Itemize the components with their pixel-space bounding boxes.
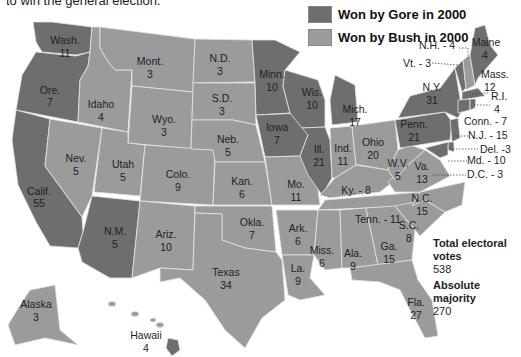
- votes-ga: 15: [383, 253, 395, 265]
- votes-ark: 6: [295, 235, 301, 247]
- votes-wash: 11: [60, 47, 71, 59]
- label-idaho: Idaho: [88, 98, 114, 110]
- legend-label-bush: Won by Bush in 2000: [338, 30, 469, 45]
- state-ri[interactable]: [470, 99, 476, 110]
- label-sc: S.C.: [399, 219, 419, 231]
- total-value: 538: [433, 263, 521, 276]
- votes-nd: 3: [217, 65, 223, 77]
- votes-kan: 6: [239, 188, 245, 200]
- state-ariz-left[interactable]: [78, 196, 140, 278]
- state-conn[interactable]: [458, 99, 470, 113]
- votes-maine: 4: [482, 49, 488, 61]
- label-vt: Vt. - 3: [403, 57, 431, 69]
- label-wash: Wash.: [50, 34, 79, 46]
- label-sd: S.D.: [212, 92, 232, 104]
- label-la: La.: [291, 262, 306, 274]
- votes-va: 13: [416, 173, 428, 185]
- label-ohio: Ohio: [362, 136, 384, 148]
- votes-sd: 3: [219, 105, 225, 117]
- votes-ala: 9: [350, 260, 356, 272]
- votes-okla: 7: [249, 229, 255, 241]
- label-ark: Ark.: [289, 222, 308, 234]
- votes-miss: 6: [319, 257, 325, 269]
- votes-iowa: 7: [274, 134, 280, 146]
- electoral-totals: Total electoral votes 538 Absolute major…: [433, 237, 521, 318]
- label-maine: Maine: [472, 36, 501, 48]
- label-fla: Fla.: [407, 296, 425, 308]
- label-nev: Nev.: [66, 152, 87, 164]
- label-nm: N.M.: [104, 225, 126, 237]
- label-neb: Neb.: [217, 133, 239, 145]
- label-dc: D.C. - 3: [467, 168, 503, 180]
- votes-sc: 8: [406, 232, 412, 244]
- votes-neb: 5: [225, 146, 231, 158]
- votes-colo: 9: [175, 181, 181, 193]
- state-alaska[interactable]: [8, 285, 78, 345]
- votes-la: 9: [295, 275, 301, 287]
- label-ga: Ga.: [381, 240, 398, 252]
- votes-ohio: 20: [367, 149, 379, 161]
- votes-nc: 15: [416, 205, 428, 217]
- majority-value: 270: [433, 305, 521, 318]
- label-ri: R.I.: [491, 90, 507, 102]
- votes-idaho: 4: [98, 111, 104, 123]
- votes-mo: 11: [291, 191, 302, 203]
- legend: Won by Gore in 2000 Won by Bush in 2000: [308, 4, 469, 50]
- label-mont: Mont.: [137, 55, 163, 67]
- votes-calif: 55: [33, 197, 45, 209]
- votes-nev: 5: [73, 165, 79, 177]
- gore-swatch: [308, 6, 332, 23]
- votes-ore: 7: [47, 96, 53, 108]
- label-colo: Colo.: [166, 168, 191, 180]
- label-mich: Mich.: [342, 103, 367, 115]
- label-wyo: Wyo.: [152, 113, 176, 125]
- votes-alaska: 3: [33, 311, 39, 323]
- leader-vt: [432, 63, 458, 65]
- label-tenn: Tenn. - 11: [355, 213, 401, 225]
- state-sd[interactable]: [192, 83, 256, 125]
- votes-nm: 5: [112, 238, 118, 250]
- label-okla: Okla.: [240, 216, 265, 228]
- votes-texas: 34: [220, 279, 232, 291]
- votes-mich: 17: [349, 116, 361, 128]
- legend-item-gore: Won by Gore in 2000: [308, 4, 469, 24]
- label-minn: Minn.: [259, 68, 285, 80]
- label-md: Md. - 10: [467, 154, 506, 166]
- total-label-line1: Total electoral: [433, 237, 521, 250]
- state-ny[interactable]: [398, 68, 462, 118]
- majority-label: Absolute majority: [433, 279, 521, 305]
- label-nj: N.J. - 15: [468, 129, 508, 141]
- label-mo: Mo.: [287, 178, 305, 190]
- label-hawaii: Hawaii: [130, 329, 162, 341]
- label-alaska: Alaska: [20, 298, 52, 310]
- label-ind: Ind.: [334, 142, 352, 154]
- votes-ri: 4: [494, 103, 500, 115]
- label-wv: W.V.: [387, 157, 408, 169]
- votes-minn: 10: [266, 81, 278, 93]
- votes-ny: 31: [426, 94, 438, 106]
- label-ky: Ky. - 8: [341, 184, 371, 196]
- label-ala: Ala.: [344, 247, 362, 259]
- legend-item-bush: Won by Bush in 2000: [308, 27, 469, 47]
- legend-label-gore: Won by Gore in 2000: [338, 7, 466, 22]
- votes-mont: 3: [147, 68, 153, 80]
- label-va: Va.: [415, 160, 430, 172]
- label-texas: Texas: [212, 266, 239, 278]
- label-kan: Kan.: [231, 175, 253, 187]
- votes-utah: 5: [120, 171, 126, 183]
- state-fla[interactable]: [350, 260, 438, 338]
- votes-wyo: 3: [161, 126, 167, 138]
- label-ny: N.Y.: [422, 81, 441, 93]
- label-ill: Ill.: [314, 143, 325, 155]
- state-del[interactable]: [448, 142, 454, 152]
- votes-wv: 5: [395, 170, 401, 182]
- label-ore: Ore.: [40, 84, 60, 96]
- votes-ariz: 10: [160, 241, 172, 253]
- votes-penn: 21: [408, 131, 420, 143]
- votes-ill: 21: [313, 156, 325, 168]
- label-penn: Penn.: [400, 118, 427, 130]
- state-nj[interactable]: [450, 118, 460, 142]
- label-calif: Calif.: [27, 185, 51, 197]
- votes-hawaii: 4: [143, 342, 149, 354]
- label-conn: Conn. - 7: [464, 115, 507, 127]
